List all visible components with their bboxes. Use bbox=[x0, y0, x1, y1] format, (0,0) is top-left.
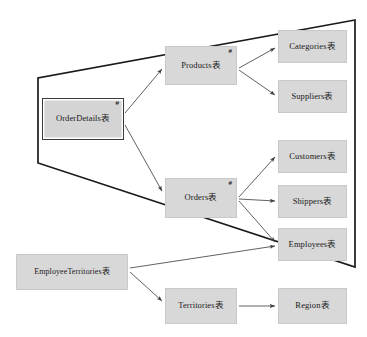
primary-key-icon: # bbox=[228, 180, 232, 187]
primary-key-icon: # bbox=[228, 48, 232, 55]
node-label: EmployeeTerritories表 bbox=[31, 268, 113, 277]
node-employeeterritories[interactable]: EmployeeTerritories表 bbox=[16, 254, 128, 290]
edge-orderdetails-products bbox=[125, 69, 162, 113]
node-orderdetails[interactable]: # OrderDetails表 bbox=[42, 98, 124, 140]
edge-employeeterritories-territories bbox=[130, 272, 162, 301]
node-label: Suppliers表 bbox=[288, 92, 336, 101]
edge-products-suppliers bbox=[239, 70, 275, 95]
node-customers[interactable]: Customers表 bbox=[278, 140, 347, 173]
node-label: Region表 bbox=[292, 301, 332, 310]
node-territories[interactable]: Territories表 bbox=[165, 288, 237, 324]
node-label: OrderDetails表 bbox=[53, 114, 113, 123]
primary-key-icon: # bbox=[115, 100, 119, 107]
node-label: Products表 bbox=[178, 61, 224, 70]
node-suppliers[interactable]: Suppliers表 bbox=[278, 80, 347, 113]
node-orders[interactable]: # Orders表 bbox=[165, 178, 237, 218]
node-region[interactable]: Region表 bbox=[278, 288, 347, 324]
node-shippers[interactable]: Shippers表 bbox=[278, 185, 347, 218]
node-products[interactable]: # Products表 bbox=[165, 46, 237, 85]
node-label: Shippers表 bbox=[290, 197, 336, 206]
edge-group bbox=[125, 48, 275, 306]
node-employees[interactable]: Employees表 bbox=[278, 228, 347, 261]
edge-orders-customers bbox=[239, 157, 275, 197]
edge-products-categories bbox=[239, 48, 275, 68]
node-label: Customers表 bbox=[286, 152, 338, 161]
node-label: Categories表 bbox=[286, 42, 338, 51]
edge-orderdetails-orders bbox=[125, 125, 162, 191]
diagram-canvas: # OrderDetails表 # Products表 # Orders表 Ca… bbox=[0, 0, 367, 337]
edge-employeeterritories-employees bbox=[130, 246, 275, 268]
node-label: Employees表 bbox=[286, 240, 340, 249]
node-categories[interactable]: Categories表 bbox=[278, 30, 347, 63]
node-label: Orders表 bbox=[182, 193, 221, 202]
node-label: Territories表 bbox=[175, 301, 226, 310]
edge-orders-employees bbox=[239, 201, 275, 242]
edge-orders-shippers bbox=[239, 199, 275, 201]
